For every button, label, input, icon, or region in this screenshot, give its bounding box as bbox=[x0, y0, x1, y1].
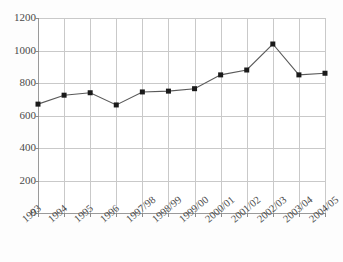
data-point-marker bbox=[88, 90, 93, 95]
data-point-marker bbox=[140, 89, 145, 94]
data-point-marker bbox=[296, 72, 301, 77]
data-point-marker bbox=[244, 68, 249, 73]
data-point-marker bbox=[62, 93, 67, 98]
data-series bbox=[0, 0, 343, 262]
line-chart: 020040060080010001200 199319941995199619… bbox=[0, 0, 343, 262]
series-markers bbox=[36, 42, 328, 108]
data-point-marker bbox=[192, 86, 197, 91]
data-point-marker bbox=[270, 42, 275, 47]
data-point-marker bbox=[36, 102, 41, 107]
data-point-marker bbox=[166, 89, 171, 94]
data-point-marker bbox=[218, 72, 223, 77]
series-line bbox=[38, 44, 325, 105]
data-point-marker bbox=[114, 102, 119, 107]
data-point-marker bbox=[323, 71, 328, 76]
